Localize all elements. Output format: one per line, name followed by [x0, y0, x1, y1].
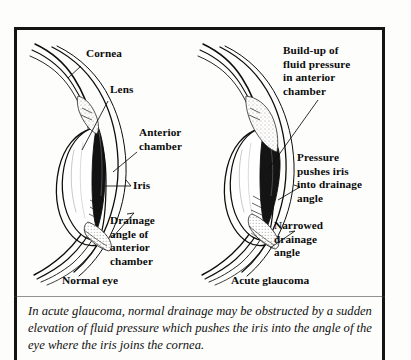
- label-iris: Iris: [133, 179, 150, 193]
- label-lens: Lens: [110, 83, 133, 97]
- normal-eye-title: Normal eye: [62, 274, 118, 286]
- label-narrowed-drainage-angle: Narrowed drainage angle: [274, 219, 323, 260]
- label-buildup-pressure: Build-up of fluid pressure in anterior c…: [283, 44, 350, 98]
- label-cornea: Cornea: [86, 47, 122, 61]
- figure-caption: In acute glaucoma, normal drainage may b…: [28, 303, 373, 355]
- figure-page: Cornea Lens Anterior chamber Iris Draina…: [0, 0, 411, 360]
- label-anterior-chamber: Anterior chamber: [139, 126, 182, 153]
- label-pressure-pushes-iris: Pressure pushes iris into drainage angle: [297, 151, 362, 205]
- glaucoma-eye-title: Acute glaucoma: [231, 274, 309, 286]
- label-drainage-angle: Drainage angle of anterior chamber: [110, 214, 155, 268]
